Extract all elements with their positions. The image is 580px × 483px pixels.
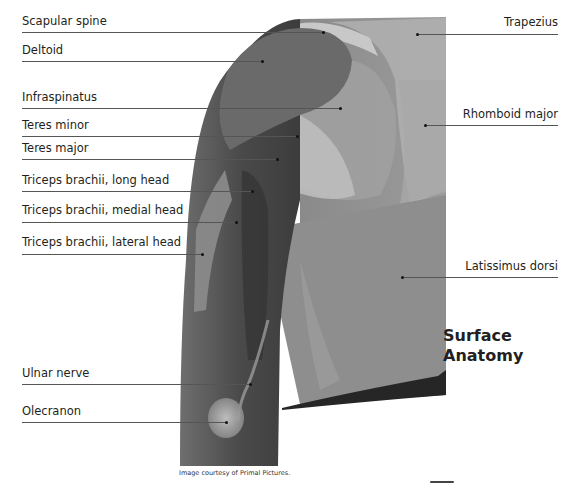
leader-line [417,34,558,35]
leader-line [22,222,236,223]
leader-line [22,384,250,385]
leader-dot [296,135,299,138]
diagram-title: Surface Anatomy [443,326,523,366]
label-text: Teres major [22,141,89,155]
leader-dot [276,158,279,161]
label-text: Olecranon [22,404,81,418]
leader-line [402,277,558,278]
leader-line [22,254,202,255]
leader-dot [249,383,252,386]
leader-dot [401,276,404,279]
image-credit: Image courtesy of Primal Pictures. [179,469,290,477]
leader-dot [416,33,419,36]
leader-dot [235,221,238,224]
leader-line [22,422,226,423]
label-text: Latissimus dorsi [465,259,558,273]
title-line-2: Anatomy [443,346,523,366]
leader-dot [424,124,427,127]
leader-dot [201,253,204,256]
leader-line [22,159,277,160]
leader-line [22,136,297,137]
label-text: Infraspinatus [22,90,97,104]
leader-line [22,191,252,192]
label-text: Triceps brachii, medial head [22,203,183,217]
leader-dot [251,190,254,193]
label-text: Teres minor [22,118,89,132]
label-text: Triceps brachii, long head [22,173,169,187]
leader-dot [339,107,342,110]
leader-line [22,108,340,109]
label-text: Ulnar nerve [22,366,89,380]
label-text: Triceps brachii, lateral head [22,235,181,249]
leader-line [425,125,558,126]
title-line-1: Surface [443,326,523,346]
rhomboid-region [398,80,446,204]
leader-dot [322,31,325,34]
label-text: Deltoid [22,43,63,57]
olecranon-region [208,398,244,438]
leader-dot [261,60,264,63]
leader-dot [225,421,228,424]
label-text: Rhomboid major [463,107,558,121]
label-text: Scapular spine [22,14,107,28]
leader-line [22,32,323,33]
label-text: Trapezius [504,15,558,29]
leader-line [22,61,262,62]
